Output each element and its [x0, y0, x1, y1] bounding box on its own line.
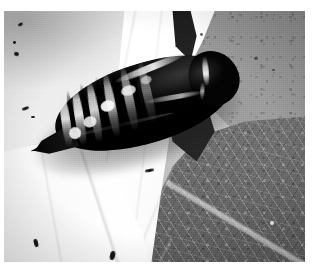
photo-border-top: [0, 0, 314, 11]
photo-border-left: [0, 0, 4, 266]
debris-speck: [31, 116, 35, 118]
debris-speck: [13, 41, 16, 44]
highlight-speck: [270, 221, 274, 225]
photo-border-right: [305, 0, 314, 266]
photograph: [4, 11, 305, 262]
debris-speck: [254, 57, 258, 60]
photo-frame: Close-up black-and-white photograph of a…: [0, 0, 314, 266]
debris-speck: [272, 69, 275, 71]
debris-speck: [200, 33, 203, 36]
highlight-speck: [64, 209, 67, 212]
photo-border-bottom: [0, 262, 314, 266]
